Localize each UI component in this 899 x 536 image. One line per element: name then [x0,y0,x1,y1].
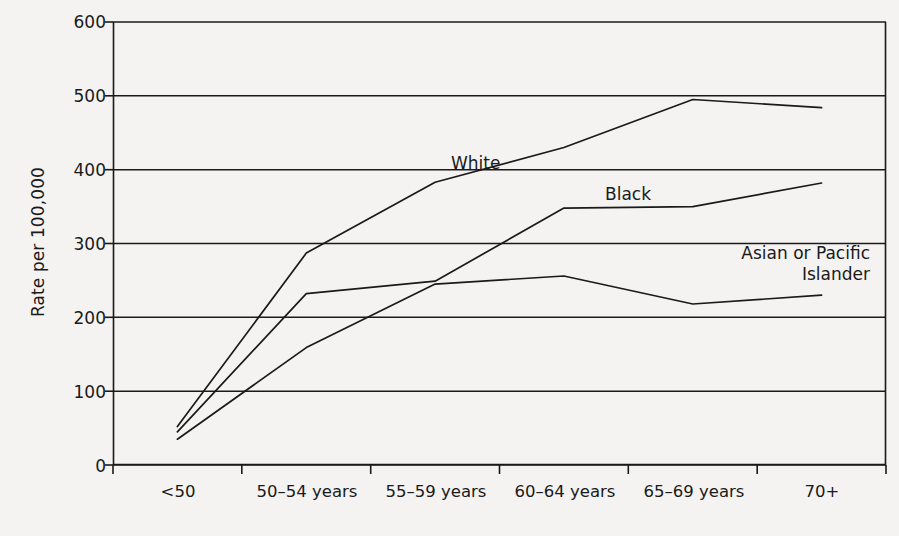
series-line-asian-or-pacific-islander [177,276,821,439]
series-line-black [177,183,821,432]
series-line-white [177,100,821,427]
axis-ticks [105,22,886,474]
series-lines [177,100,821,440]
chart-plot-area [0,0,899,536]
gridlines [113,22,886,465]
chart-figure: Rate per 100,000 600 500 400 300 200 100… [0,0,899,536]
